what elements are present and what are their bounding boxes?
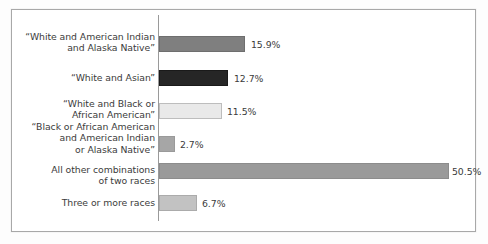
figure-canvas: “White and American Indian and Alaska Na…: [0, 0, 488, 244]
bar-value-4: 50.5%: [452, 166, 481, 177]
bar-value-5: 6.7%: [202, 198, 225, 209]
bar-1: [159, 70, 228, 86]
chart-frame: “White and American Indian and Alaska Na…: [11, 9, 476, 232]
bar-value-0: 15.9%: [251, 39, 280, 50]
category-label-3: “Black or African American and American …: [0, 121, 155, 155]
bar-3: [159, 136, 175, 152]
category-label-0: “White and American Indian and Alaska Na…: [0, 31, 155, 54]
bar-2: [159, 103, 222, 119]
category-label-4: All other combinations of two races: [0, 164, 155, 187]
bar-value-2: 11.5%: [227, 106, 256, 117]
category-label-5: Three or more races: [0, 197, 155, 208]
category-label-2: “White and Black or African American”: [0, 98, 155, 121]
category-label-1: “White and Asian”: [0, 72, 155, 83]
plot-area: “White and American Indian and Alaska Na…: [12, 10, 475, 231]
bar-0: [159, 36, 245, 52]
bar-value-3: 2.7%: [180, 139, 203, 150]
bar-value-1: 12.7%: [234, 73, 263, 84]
bar-5: [159, 195, 197, 211]
bar-4: [159, 163, 449, 179]
